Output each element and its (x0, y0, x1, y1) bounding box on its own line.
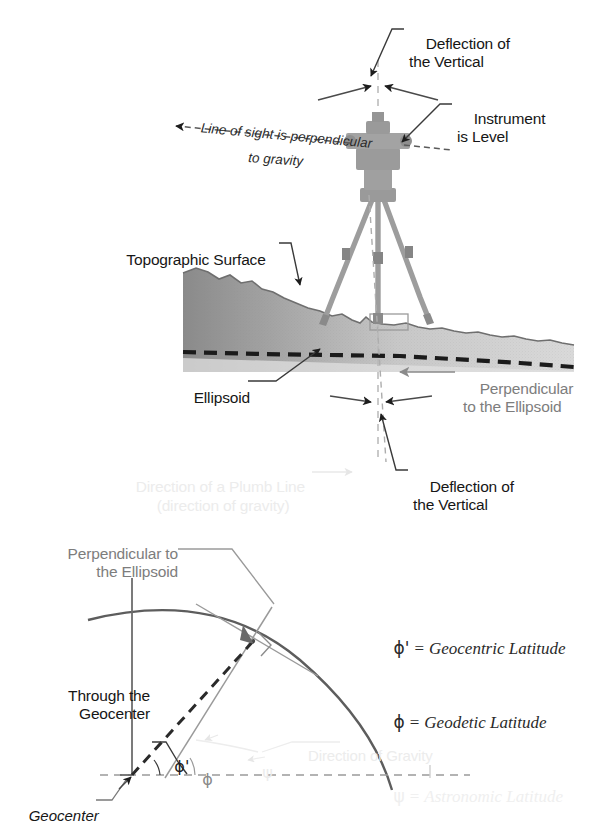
deflection-top-leader (371, 29, 404, 76)
label-deflection-vertical-top: Deflection of the Vertical (409, 18, 510, 87)
deflection-bottom-arrow-right (386, 396, 432, 402)
label-topographic-surface: Topographic Surface (110, 234, 266, 286)
label-deflection-vertical-bottom: Deflection of the Vertical (413, 461, 514, 530)
label-instrument-is-level: Instrument is Level (457, 93, 545, 162)
label-perpendicular-to-ellipsoid-lower: Perpendicular to the Ellipsoid (0, 528, 178, 597)
legend-definition: Geodetic Latitude (424, 713, 546, 732)
deflection-top-arrow-left (318, 86, 371, 100)
figure-canvas: Deflection of the Vertical Instrument is… (0, 0, 592, 836)
gravity-direction-arrowhead (205, 735, 218, 740)
tripod-foot-right (423, 313, 434, 325)
angle-label-astronomic: ψ (242, 746, 273, 800)
legend-item-geodetic: ϕ=Geodetic Latitude (368, 692, 565, 753)
label-ellipsoid: Ellipsoid (177, 372, 250, 424)
line-of-sight-right (404, 145, 452, 150)
tripod-leg-right (384, 200, 428, 317)
tripod-clamp-left (342, 248, 350, 260)
legend-equals: = (410, 713, 420, 732)
legend-item-astronomic: ψ=Astronomic Latitude (368, 766, 565, 827)
legend-symbol: ϕ' (394, 638, 410, 658)
geocenter-arrow (119, 777, 131, 789)
legend-equals: = (414, 639, 424, 658)
legend-definition: Geocentric Latitude (429, 639, 565, 658)
label-perpendicular-to-ellipsoid-upper: Perpendicular to the Ellipsoid (463, 363, 573, 432)
label-plumb-line-2: (direction of gravity) (140, 480, 289, 532)
label-through-the-geocenter: Through the Geocenter (0, 670, 150, 739)
legend-equals: = (410, 787, 420, 806)
angle-label-geodetic: ϕ (182, 753, 213, 807)
label-line-of-sight-2: to gravity (232, 134, 305, 184)
deflection-bottom-arrow-left (330, 396, 371, 402)
tripod-clamp-right (405, 246, 413, 258)
label-geocenter: Geocenter (12, 791, 99, 836)
topographic-surface-leader (279, 243, 300, 285)
perpendicular-ellipsoid-leader-lower (178, 549, 274, 604)
legend-definition: Astronomic Latitude (424, 787, 563, 806)
legend-symbol: ϕ (394, 712, 405, 732)
geocenter-leader (96, 780, 126, 800)
tripod-head (360, 188, 396, 202)
deflection-top-arrow-right (385, 86, 438, 100)
latitude-legend: ϕ'=Geocentric Latitude ϕ=Geodetic Latitu… (368, 618, 565, 827)
instrument-base (364, 168, 392, 190)
tripod-clamp-center (373, 252, 383, 264)
legend-item-geocentric: ϕ'=Geocentric Latitude (368, 618, 565, 679)
legend-symbol: ψ (394, 786, 405, 806)
ellipsoid-tangent (196, 604, 318, 676)
tripod-foot-center (373, 313, 383, 324)
